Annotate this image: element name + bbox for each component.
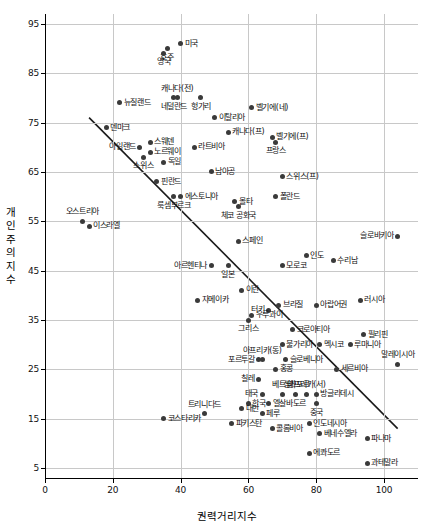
point-label: 룩셈부르크: [157, 202, 190, 210]
point-label: 코스타리카: [168, 415, 201, 423]
point-label: 엘살바도르: [273, 400, 306, 408]
point-label: 인도네시아: [313, 420, 346, 428]
scatter-point: [270, 426, 275, 431]
point-label: 베네수엘라: [324, 430, 357, 438]
point-label: 이스라엘: [93, 222, 120, 230]
y-tick-label: 15: [13, 414, 39, 424]
scatter-point: [226, 130, 231, 135]
scatter-point: [161, 160, 166, 165]
point-label: 아프리카(동): [243, 347, 282, 355]
scatter-point: [280, 392, 285, 397]
scatter-point: [395, 234, 400, 239]
point-label: 멕시코: [324, 341, 344, 349]
point-label: 그리스: [238, 325, 258, 333]
scatter-point: [236, 239, 241, 244]
y-axis-line: [45, 14, 46, 478]
x-axis-line: [45, 478, 418, 479]
point-label: 인도: [310, 252, 323, 260]
point-label: 방글라데시: [320, 390, 353, 398]
point-label: 스위스: [133, 162, 153, 170]
point-label: 캐나다(프): [232, 128, 264, 136]
x-tick-label: 100: [369, 485, 399, 495]
scatter-point: [165, 46, 170, 51]
scatter-point: [273, 140, 278, 145]
point-label: 남아공: [215, 168, 235, 176]
y-gridline: [45, 123, 418, 124]
scatter-point: [260, 392, 265, 397]
y-tick-label: 65: [13, 167, 39, 177]
point-label: 폴란드: [280, 193, 300, 201]
scatter-point: [236, 204, 241, 209]
point-label: 미국: [185, 40, 198, 48]
point-label: 페루: [266, 410, 279, 418]
point-label: 세르비아: [341, 365, 368, 373]
point-label: 크로아티아: [297, 326, 330, 334]
scatter-point: [249, 313, 254, 318]
scatter-point: [226, 263, 231, 268]
point-label: 체코 공화국: [221, 212, 256, 220]
y-axis-title-char: 주: [4, 233, 18, 247]
point-label: 에콰도르: [313, 449, 340, 457]
scatter-point: [87, 224, 92, 229]
scatter-point: [246, 318, 251, 323]
scatter-chart: 개인주의지수 권력거리지수 51525354555657585950204060…: [0, 0, 426, 531]
point-label: 네덜란드: [161, 103, 188, 111]
point-label: 캐나다(전): [161, 85, 193, 93]
point-label: 콜롬비아: [276, 425, 303, 433]
point-label: 태국: [245, 390, 258, 398]
point-label: 브라질: [283, 301, 303, 309]
point-label: 스페인: [242, 237, 262, 245]
y-tick-label: 85: [13, 68, 39, 78]
y-tick-label: 35: [13, 315, 39, 325]
point-label: 파나마: [371, 435, 391, 443]
x-gridline: [113, 14, 114, 478]
point-label: 슬로바키아: [360, 232, 393, 240]
scatter-point: [358, 298, 363, 303]
y-tick-label: 75: [13, 118, 39, 128]
point-label: 몰타: [239, 198, 252, 206]
scatter-point: [365, 436, 370, 441]
point-label: 필리핀: [368, 331, 388, 339]
point-label: 벨기에(네): [256, 104, 288, 112]
y-axis-title-char: 의: [4, 246, 18, 260]
scatter-point: [148, 140, 153, 145]
scatter-point: [209, 263, 214, 268]
scatter-point: [260, 411, 265, 416]
x-tick-label: 80: [301, 485, 331, 495]
scatter-point: [348, 342, 353, 347]
point-label: 중국: [310, 409, 323, 417]
y-tick-label: 25: [13, 364, 39, 374]
point-label: 칠레: [241, 375, 254, 383]
scatter-point: [314, 303, 319, 308]
scatter-point: [365, 461, 370, 466]
point-label: 이탈리아: [219, 114, 246, 122]
point-label: 프랑스: [266, 147, 286, 155]
point-label: 모로코: [286, 262, 306, 270]
scatter-point: [141, 155, 146, 160]
y-gridline: [45, 320, 418, 321]
point-label: 불가리아: [286, 341, 313, 349]
point-label: 과테말라: [371, 459, 398, 467]
x-tick-label: 0: [30, 485, 60, 495]
y-tick-label: 5: [13, 463, 39, 473]
point-label: 뉴질랜드: [124, 99, 151, 107]
point-label: 아일랜드: [109, 143, 136, 151]
scatter-point: [256, 377, 261, 382]
point-label: 러시아: [364, 296, 384, 304]
scatter-point: [195, 298, 200, 303]
point-label: 대만: [246, 405, 259, 413]
point-label: 오스트리아: [66, 208, 99, 216]
scatter-point: [192, 145, 197, 150]
y-tick-label: 55: [13, 216, 39, 226]
point-label: 아랍어권: [320, 301, 347, 309]
y-gridline: [45, 419, 418, 420]
point-label: 벨기에(프): [276, 133, 308, 141]
point-label: 홍콩: [280, 365, 293, 373]
scatter-point: [334, 367, 339, 372]
x-gridline: [384, 14, 385, 478]
scatter-point: [104, 125, 109, 130]
point-label: 스위스(프): [286, 173, 318, 181]
point-label: 스웨덴: [154, 138, 174, 146]
point-label: 노르웨이: [154, 148, 181, 156]
point-label: 아르헨티나: [174, 262, 207, 270]
